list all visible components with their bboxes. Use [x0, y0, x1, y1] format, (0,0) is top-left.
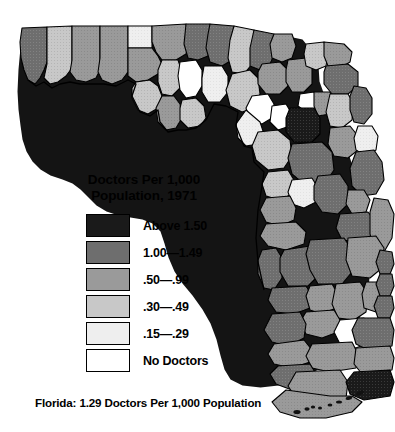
legend-item-no-doctors: No Doctors	[86, 347, 242, 374]
legend-item-30-49: .30—.49	[86, 293, 242, 320]
legend-label-above-150: Above 1.50	[143, 219, 207, 233]
legend-item-above-150: Above 1.50	[86, 212, 242, 239]
county-indian-river	[376, 250, 394, 274]
county-st-johns	[350, 86, 372, 124]
legend-item-100-149: 1.00—1.49	[86, 239, 242, 266]
county-miami-dade	[346, 370, 394, 400]
county-st-lucie	[376, 274, 394, 296]
legend-title: Doctors Per 1,000 Population, 1971	[46, 172, 242, 203]
florida-doctors-map-figure: Doctors Per 1,000 Population, 1971 Above…	[0, 0, 395, 432]
legend-label-30-49: .30—.49	[143, 300, 189, 314]
county-okaloosa	[70, 26, 100, 82]
state-summary-footnote: Florida: 1.29 Doctors Per 1,000 Populati…	[35, 396, 261, 409]
county-walton	[98, 26, 128, 84]
legend-swatch-above-150	[86, 214, 130, 237]
county-alachua	[286, 108, 320, 142]
legend-swatch-no-doctors	[86, 349, 130, 372]
county-hendry	[306, 342, 358, 372]
legend-swatch-30-49	[86, 295, 130, 318]
county-suwannee	[258, 62, 288, 94]
legend-label-100-149: 1.00—1.49	[143, 246, 202, 260]
legend-items-list: Above 1.50 1.00—1.49 .50—.99 .30—.49 .15…	[86, 212, 242, 374]
county-martin	[374, 296, 394, 318]
legend-swatch-100-149	[86, 241, 130, 264]
county-seminole	[346, 190, 370, 214]
county-monroe-mainland	[272, 390, 362, 418]
legend-item-15-29: .15—.29	[86, 320, 242, 347]
county-manatee	[268, 286, 312, 314]
county-hernando	[260, 196, 296, 226]
county-pinellas	[258, 248, 282, 290]
legend-label-no-doctors: No Doctors	[143, 354, 208, 368]
county-volusia	[350, 150, 384, 196]
county-hamilton	[270, 34, 296, 62]
county-liberty	[178, 60, 202, 98]
legend-item-50-99: .50—.99	[86, 266, 242, 293]
county-wakulla	[202, 66, 228, 102]
legend-swatch-15-29	[86, 322, 130, 345]
legend-label-50-99: .50—.99	[143, 273, 189, 287]
county-lake	[314, 174, 348, 214]
legend-swatch-50-99	[86, 268, 130, 291]
county-palm-beach	[352, 318, 394, 350]
county-holmes	[128, 26, 152, 48]
map-legend: Doctors Per 1,000 Population, 1971 Above…	[46, 172, 242, 374]
legend-label-15-29: .15—.29	[143, 327, 189, 341]
